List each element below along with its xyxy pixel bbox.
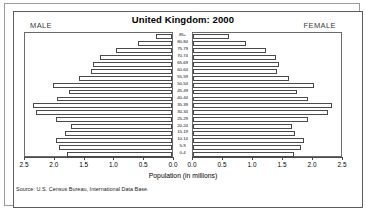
x-axis-tick [342,157,343,160]
male-bar [36,110,172,115]
x-axis-tick-label: 1.0 [248,161,257,168]
x-axis: 2.52.01.51.00.50.00.00.51.01.52.02.5 [24,157,342,171]
female-bar [193,34,229,39]
male-bar [71,124,172,129]
age-group-label: 15-19 [173,130,192,134]
x-axis-tick [24,157,25,160]
x-axis-tick [113,157,114,160]
age-group-label: 20-24 [173,124,192,128]
female-bar [193,48,266,53]
x-axis-tick [173,157,174,160]
x-axis-tick [192,157,193,160]
x-axis-tick-label: 1.5 [278,161,287,168]
male-bar [56,117,172,122]
source-note: Source: U.S. Census Bureau, Internationa… [16,186,149,192]
age-group-label: 0-4 [173,151,192,155]
female-bar [193,131,295,136]
female-bar [193,110,328,115]
x-axis-tick [252,157,253,160]
age-group-label: 70-74 [173,54,192,58]
age-group-label: 45-49 [173,89,192,93]
male-bar [156,34,172,39]
x-axis-tick [312,157,313,160]
male-bar [91,69,172,74]
male-bar [69,90,172,95]
x-axis-tick [84,157,85,160]
x-axis-line-left [24,157,173,158]
age-group-label: 30-34 [173,110,192,114]
female-bar [193,90,297,95]
female-bar [193,103,332,108]
age-group-label: 10-14 [173,137,192,141]
x-axis-tick [143,157,144,160]
x-axis-tick [54,157,55,160]
male-bar [57,97,172,102]
age-group-label: 75-79 [173,47,192,51]
x-axis-tick-label: 1.5 [79,161,88,168]
x-axis-tick-label: 2.0 [49,161,58,168]
age-group-label: 40-44 [173,96,192,100]
female-bar [193,138,304,143]
age-group-label: 25-29 [173,117,192,121]
male-bar [59,145,172,150]
x-axis-line-right [192,157,342,158]
male-bar [65,131,172,136]
female-axis-label: FEMALE [304,21,336,30]
age-group-label: 80-84 [173,40,192,44]
x-axis-tick-label: 0.5 [139,161,148,168]
male-panel [24,32,173,157]
x-axis-tick [222,157,223,160]
male-bar [33,103,172,108]
female-bar [193,83,314,88]
age-group-labels: 0-45-910-1415-1920-2425-2930-3435-3940-4… [173,32,192,157]
female-bar [193,117,308,122]
male-bar [100,55,172,60]
female-bar [193,55,276,60]
male-bar [138,41,172,46]
female-bar [193,41,246,46]
female-panel [192,32,342,157]
x-axis-tick-label: 2.5 [338,161,347,168]
x-axis-tick-label: 2.0 [308,161,317,168]
age-group-label: 55-59 [173,75,192,79]
female-bar [193,97,308,102]
x-axis-tick-label: 2.5 [20,161,29,168]
x-axis-tick [282,157,283,160]
male-bar [56,138,172,143]
male-bar [79,76,172,81]
female-bar [193,76,289,81]
age-group-label: 50-54 [173,82,192,86]
age-group-label: 85+ [173,33,192,37]
male-axis-label: MALE [30,21,52,30]
female-bar [193,69,277,74]
x-axis-tick-label: 0.0 [188,161,197,168]
male-bar [93,62,172,67]
male-bar [53,83,172,88]
female-bar [193,145,301,150]
male-bar [116,48,172,53]
x-axis-tick-label: 1.0 [109,161,118,168]
female-bar [193,124,292,129]
female-bar [193,62,279,67]
x-axis-caption: Population (in millions) [0,172,366,179]
age-group-label: 5-9 [173,144,192,148]
age-group-label: 60-64 [173,68,192,72]
population-pyramid-plot: 0-45-910-1415-1920-2425-2930-3435-3940-4… [24,32,342,157]
x-axis-tick-label: 0.0 [169,161,178,168]
age-group-label: 65-69 [173,61,192,65]
x-axis-tick-label: 0.5 [218,161,227,168]
age-group-label: 35-39 [173,103,192,107]
